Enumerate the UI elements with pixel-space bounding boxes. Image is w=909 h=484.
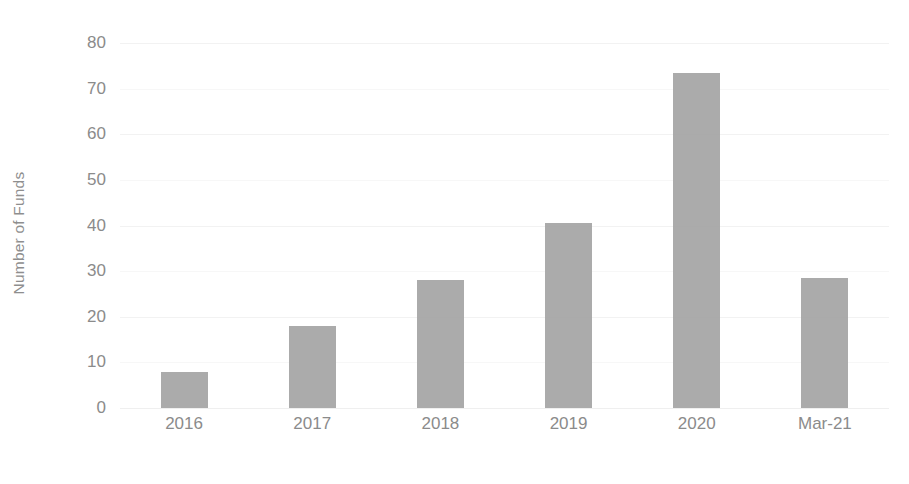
- gridline: [120, 43, 889, 44]
- x-axis-tick-labels: 20162017201820192020Mar-21: [120, 414, 889, 454]
- gridline: [120, 134, 889, 135]
- gridline: [120, 89, 889, 90]
- gridline: [120, 271, 889, 272]
- x-tick-label: 2018: [421, 414, 459, 434]
- x-tick-label: 2016: [165, 414, 203, 434]
- plot-area: [120, 43, 889, 408]
- bar: [545, 223, 592, 408]
- x-tick-label: 2020: [678, 414, 716, 434]
- gridline: [120, 180, 889, 181]
- y-axis-tick-labels: 01020304050607080: [44, 43, 106, 408]
- bar: [161, 372, 208, 409]
- y-tick-label: 40: [60, 216, 106, 236]
- y-tick-label: 60: [60, 124, 106, 144]
- x-tick-label: 2017: [293, 414, 331, 434]
- bar: [289, 326, 336, 408]
- bar: [417, 280, 464, 408]
- y-tick-label: 10: [60, 352, 106, 372]
- x-tick-label: 2019: [550, 414, 588, 434]
- bar: [801, 278, 848, 408]
- gridline: [120, 317, 889, 318]
- y-tick-label: 30: [60, 261, 106, 281]
- y-tick-label: 20: [60, 307, 106, 327]
- bar-chart: Number of Funds 01020304050607080 201620…: [0, 0, 909, 484]
- y-tick-label: 80: [60, 33, 106, 53]
- gridline: [120, 226, 889, 227]
- x-tick-label: Mar-21: [798, 414, 852, 434]
- y-tick-label: 0: [60, 398, 106, 418]
- bar: [673, 73, 720, 408]
- y-tick-label: 70: [60, 79, 106, 99]
- y-axis-title-text: Number of Funds: [10, 172, 28, 295]
- gridline: [120, 362, 889, 363]
- gridline: [120, 408, 889, 409]
- y-tick-label: 50: [60, 170, 106, 190]
